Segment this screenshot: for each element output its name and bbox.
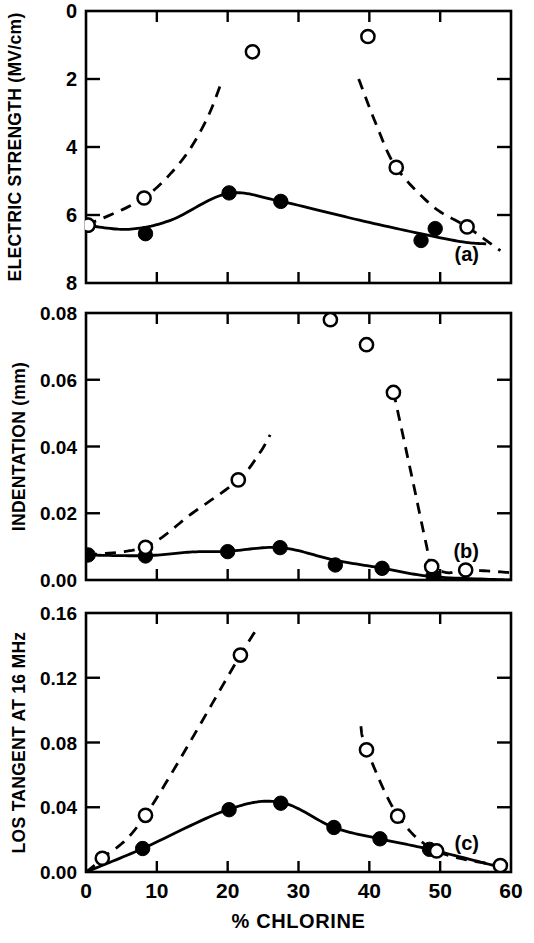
y-tick-label: 0.08 <box>40 733 77 754</box>
data-point-open <box>387 386 400 399</box>
data-point-filled <box>375 561 389 575</box>
x-tick-label: 0 <box>80 879 92 902</box>
y-tick-label: 0.06 <box>40 370 77 391</box>
y-tick-label: 4 <box>66 136 78 158</box>
panel-label-a: (a) <box>455 243 479 265</box>
data-point-open <box>459 563 472 576</box>
panel-label-c: (c) <box>455 832 479 854</box>
panel-b: 0.000.020.040.060.08(b) <box>40 303 511 591</box>
data-point-open <box>324 313 337 326</box>
x-tick-label: 60 <box>499 879 522 902</box>
data-point-open <box>390 161 403 174</box>
data-point-filled <box>273 540 287 554</box>
x-tick-label: 20 <box>216 879 239 902</box>
x-tick-label: 40 <box>358 879 381 902</box>
x-tick-label: 10 <box>145 879 168 902</box>
y-axis-title-b: INDENTATION (mm) <box>9 362 29 531</box>
data-point-filled <box>274 194 288 208</box>
data-point-open <box>361 30 374 43</box>
y-tick-label: 0.00 <box>40 570 77 591</box>
data-point-filled <box>373 832 387 846</box>
data-point-open <box>232 473 245 486</box>
x-axis-title: % CHLORINE <box>232 910 366 932</box>
data-point-open <box>139 809 152 822</box>
y-axis-title-a: ELECTRIC STRENGTH (MV/cm) <box>5 12 25 281</box>
plot-frame <box>86 613 511 872</box>
dashed-trend-line <box>393 391 511 572</box>
panel-a: 02468(a) <box>66 0 511 294</box>
figure-container: 02468(a)ELECTRIC STRENGTH (MV/cm)0.000.0… <box>0 0 534 943</box>
data-point-open <box>360 743 373 756</box>
data-point-open <box>139 541 152 554</box>
data-point-open <box>460 220 473 233</box>
data-point-filled <box>274 796 288 810</box>
data-point-filled <box>81 548 95 562</box>
data-point-filled <box>222 186 236 200</box>
data-point-open <box>494 859 507 872</box>
data-point-filled <box>328 558 342 572</box>
data-point-filled <box>414 233 428 247</box>
data-point-open <box>82 219 95 232</box>
dashed-trend-line <box>86 435 270 555</box>
y-tick-label: 8 <box>66 272 77 294</box>
data-point-open <box>234 648 247 661</box>
x-tick-label: 30 <box>287 879 310 902</box>
data-point-filled <box>220 544 234 558</box>
multi-panel-chart: 02468(a)ELECTRIC STRENGTH (MV/cm)0.000.0… <box>0 0 534 943</box>
data-point-filled <box>135 841 149 855</box>
plot-frame <box>86 11 511 283</box>
y-tick-label: 0.08 <box>40 303 77 324</box>
data-point-open <box>246 45 259 58</box>
y-tick-label: 0.16 <box>40 603 77 624</box>
y-axis-title-c: LOS TANGENT AT 16 MHz <box>9 632 29 854</box>
data-point-filled <box>428 221 442 235</box>
data-point-open <box>430 844 443 857</box>
y-tick-label: 0.02 <box>40 503 77 524</box>
data-point-open <box>137 191 150 204</box>
data-point-open <box>96 852 109 865</box>
y-tick-label: 0.04 <box>40 797 77 818</box>
series-group <box>81 30 500 251</box>
data-point-filled <box>327 820 341 834</box>
x-axis-labels: 0102030405060 <box>80 879 523 902</box>
data-point-open <box>360 338 373 351</box>
series-group <box>81 313 511 583</box>
y-tick-label: 0.00 <box>40 862 77 883</box>
x-tick-label: 50 <box>428 879 451 902</box>
panel-label-b: (b) <box>453 540 479 562</box>
dashed-trend-line <box>361 726 525 867</box>
y-tick-label: 0 <box>66 0 77 22</box>
y-tick-label: 0.12 <box>40 668 77 689</box>
y-tick-label: 2 <box>66 68 77 90</box>
plot-frame <box>86 313 511 580</box>
data-point-open <box>391 810 404 823</box>
y-tick-label: 0.04 <box>40 437 77 458</box>
data-point-filled <box>222 802 236 816</box>
y-tick-label: 6 <box>66 204 77 226</box>
panel-c: 0.000.040.080.120.16(c) <box>40 603 525 883</box>
data-point-filled <box>138 227 152 241</box>
data-point-open <box>425 560 438 573</box>
